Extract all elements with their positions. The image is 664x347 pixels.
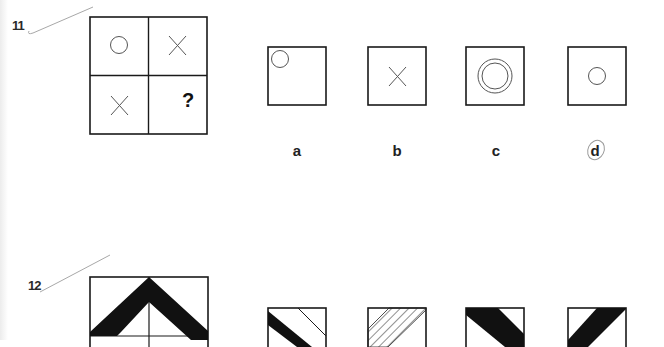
option-c-figure[interactable] [465, 46, 527, 108]
option-d-label[interactable]: d [585, 142, 605, 159]
page-edge-shadow [0, 0, 8, 340]
option-b-figure[interactable] [367, 46, 429, 108]
option-c-label[interactable]: c [486, 142, 506, 159]
option-12c-figure[interactable] [465, 307, 527, 347]
option-a-figure[interactable] [267, 46, 329, 108]
question-11-grid [89, 16, 209, 136]
question-11-number: 11 [12, 18, 24, 33]
question-12-number: 12 [28, 278, 40, 293]
question-mark: ? [178, 89, 198, 112]
option-b-label[interactable]: b [387, 142, 407, 159]
option-12a-figure[interactable] [267, 307, 329, 347]
question-12-figure [89, 276, 211, 346]
option-12d-figure[interactable] [567, 307, 629, 347]
option-a-label[interactable]: a [287, 142, 307, 159]
option-12b-figure[interactable] [367, 307, 429, 347]
option-d-figure[interactable] [567, 46, 629, 108]
